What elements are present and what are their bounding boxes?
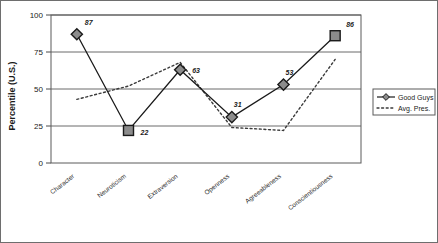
y-axis-title: Percentile (U.S.)	[7, 61, 17, 130]
line-chart: Percentile (U.S.) 100 75 50 25 0	[1, 1, 438, 243]
y-tick-label: 50	[34, 85, 43, 94]
x-axis-category-label: Neuroticism	[96, 172, 127, 199]
data-point-marker-square[interactable]	[124, 125, 134, 135]
x-axis-category-labels: CharacterNeuroticismExtraversionOpenness…	[49, 172, 335, 212]
y-tick-label: 75	[34, 48, 43, 57]
series-line-good-guys	[77, 34, 335, 130]
y-tick-label: 0	[39, 159, 44, 168]
series-line-avg-pres	[77, 59, 335, 130]
y-tick-label: 100	[30, 11, 44, 20]
legend-label-avg-pres: Avg. Pres.	[398, 105, 430, 113]
data-point-value-label: 22	[140, 129, 149, 136]
data-point-value-label: 31	[234, 101, 242, 108]
chart-figure: Percentile (U.S.) 100 75 50 25 0	[0, 0, 438, 243]
series-markers-good-guys	[71, 29, 340, 136]
x-axis-category-label: Openness	[203, 172, 232, 197]
data-point-marker-diamond[interactable]	[71, 29, 82, 40]
data-point-value-label: 86	[346, 21, 354, 28]
data-point-value-label: 63	[192, 67, 200, 74]
point-value-labels: 872263315386	[85, 19, 354, 136]
x-axis-category-label: Agreeableness	[244, 172, 284, 205]
x-axis-category-label: Extraversion	[146, 172, 179, 200]
x-axis-category-label: Conscientiousness	[286, 172, 334, 212]
y-tick-label: 25	[34, 122, 43, 131]
y-axis-tick-marks	[46, 15, 51, 163]
legend-label-good-guys: Good Guys	[398, 94, 434, 102]
chart-legend: Good Guys Avg. Pres.	[373, 89, 435, 115]
data-point-value-label: 87	[85, 19, 94, 26]
data-point-marker-square[interactable]	[330, 31, 340, 41]
legend-entry-good-guys[interactable]: Good Guys	[377, 94, 434, 102]
data-point-value-label: 53	[286, 69, 294, 76]
x-axis-category-label: Character	[49, 172, 76, 196]
y-axis-tick-labels: 100 75 50 25 0	[30, 11, 44, 168]
gridlines	[51, 15, 361, 126]
